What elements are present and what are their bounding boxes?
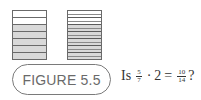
denominator: 7 <box>137 77 141 84</box>
equivalence-question: Is 5 7 · 2 = 10 14 ? <box>121 68 194 84</box>
bar-segment <box>13 17 46 24</box>
fraction-ten-fourteenths: 10 14 <box>177 69 186 84</box>
bar-segment <box>68 56 101 60</box>
question-prefix: Is <box>121 68 131 84</box>
equals-sign: = <box>164 68 172 84</box>
question-mark: ? <box>188 68 194 84</box>
bar-segment <box>13 31 46 38</box>
bar-segment <box>13 24 46 31</box>
figure-label: FIGURE 5.5 <box>12 64 111 95</box>
bar-segment <box>13 52 46 59</box>
bar-segment <box>13 38 46 45</box>
fraction-five-sevenths: 5 7 <box>136 69 142 84</box>
bar-segment <box>13 45 46 52</box>
multiply-dot: · <box>147 68 152 84</box>
figure-label-text: FIGURE 5.5 <box>22 72 100 88</box>
denominator: 14 <box>178 77 185 84</box>
multiplier: 2 <box>154 68 161 84</box>
fraction-bar-five-sevenths <box>12 10 47 60</box>
fraction-bar-ten-fourteenths <box>67 10 102 60</box>
